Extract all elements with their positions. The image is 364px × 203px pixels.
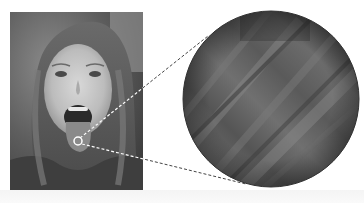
magnification-figure [0, 0, 364, 203]
photo [10, 12, 143, 190]
magnified-view-circle [180, 10, 364, 200]
